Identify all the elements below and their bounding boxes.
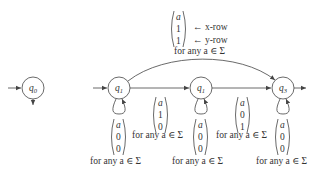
- vector-entry: a: [280, 120, 285, 130]
- edge-caption: for any a ∈ Σ: [132, 130, 184, 140]
- loop-caption: for any a ∈ Σ: [256, 156, 308, 166]
- top-edge-label: a 1 1 ← x-row ← y-row for any a ∈ Σ: [172, 11, 228, 56]
- y-row-note: ← y-row: [193, 35, 228, 45]
- vector-entry: a: [176, 12, 181, 22]
- vector-entry: 1: [158, 110, 163, 120]
- vector-entry: 0: [198, 132, 203, 142]
- state-q1-first: q1: [93, 77, 130, 114]
- vector-entry: 1: [176, 36, 181, 46]
- state-q1-second: q1: [190, 77, 212, 114]
- vector-entry: 1: [176, 24, 181, 34]
- self-loop-q1-second: [195, 99, 207, 114]
- loop-label-q3: a 0 0 for any a ∈ Σ: [256, 119, 308, 166]
- loop-label-q1: a 0 0 for any a ∈ Σ: [90, 119, 142, 166]
- edge-caption: for any a ∈ Σ: [216, 130, 268, 140]
- top-edge-caption: for any a ∈ Σ: [174, 46, 226, 56]
- vector-entry: a: [116, 120, 121, 130]
- edge-label-q1-q1: a 1 0 for any a ∈ Σ: [132, 97, 184, 140]
- automaton-diagram: q0 q1 q1 q3 a 1 1 ← x-row ← y-row for an…: [0, 0, 322, 177]
- loop-label-q1-second: a 0 0 for any a ∈ Σ: [172, 119, 224, 166]
- self-loop-q1: [113, 99, 125, 114]
- state-q0: q0: [8, 77, 44, 105]
- state-q3: q3: [272, 77, 306, 114]
- vector-entry: 0: [280, 144, 285, 154]
- vector-entry: a: [198, 120, 203, 130]
- left-paren: [172, 11, 175, 47]
- x-row-note: ← x-row: [193, 22, 228, 32]
- vector-entry: a: [240, 98, 245, 108]
- edge-label-q1-q3: a 0 1 for any a ∈ Σ: [216, 97, 268, 140]
- right-paren: [183, 11, 186, 47]
- vector-entry: a: [158, 98, 163, 108]
- vector-entry: 0: [198, 144, 203, 154]
- loop-caption: for any a ∈ Σ: [90, 156, 142, 166]
- vector-entry: 0: [240, 110, 245, 120]
- vector-entry: 0: [280, 132, 285, 142]
- self-loop-q3: [277, 99, 289, 114]
- vector-entry: 0: [116, 144, 121, 154]
- vector-entry: 0: [116, 132, 121, 142]
- loop-caption: for any a ∈ Σ: [172, 156, 224, 166]
